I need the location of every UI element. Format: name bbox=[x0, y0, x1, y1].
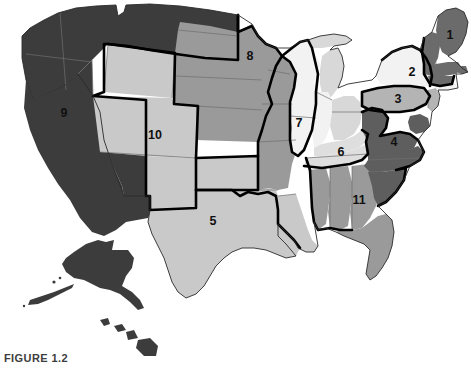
alaska-island-dot-3 bbox=[23, 305, 25, 307]
region-label-4: 4 bbox=[391, 135, 398, 149]
region-label-8: 8 bbox=[247, 49, 254, 63]
alaska-inset-shape bbox=[62, 240, 144, 310]
figure-caption: FIGURE 1.2 bbox=[4, 352, 68, 368]
region-5-kansas-shape bbox=[196, 156, 258, 190]
region-label-10: 10 bbox=[148, 128, 162, 142]
hawaii-inset-shape bbox=[100, 318, 158, 356]
region-11-alabama-shape bbox=[328, 166, 352, 230]
region-10-utah-strip-shape bbox=[93, 96, 146, 156]
region-label-7: 7 bbox=[296, 116, 303, 130]
alaska-island-dot-2 bbox=[59, 277, 62, 280]
region-7-illinois-shape bbox=[290, 82, 316, 156]
region-7-ohio-shape bbox=[330, 96, 362, 140]
region-label-11: 11 bbox=[352, 193, 365, 207]
alaska-aleutian-shape bbox=[28, 284, 74, 305]
region-label-2: 2 bbox=[409, 65, 416, 79]
alaska-island-dot-1 bbox=[52, 280, 55, 283]
region-label-9: 9 bbox=[61, 106, 68, 120]
us-regions-map: 1 2 3 4 5 6 7 8 9 10 11 bbox=[0, 0, 471, 368]
region-label-6: 6 bbox=[338, 145, 345, 159]
region-label-1: 1 bbox=[447, 28, 454, 42]
figure-container: 1 2 3 4 5 6 7 8 9 10 11 FIGURE 1.2 bbox=[0, 0, 471, 368]
region-label-3: 3 bbox=[395, 92, 402, 106]
region-label-5: 5 bbox=[210, 214, 217, 228]
region-10-new-mexico-shape bbox=[146, 156, 196, 210]
region-4-maryland-shape bbox=[408, 114, 430, 134]
